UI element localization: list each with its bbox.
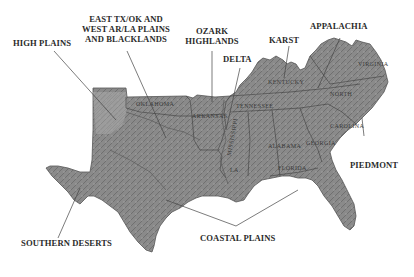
label-appalachia: APPALACHIA — [310, 21, 368, 31]
label-delta: DELTA — [223, 54, 252, 64]
label-ozark-line1: OZARK — [182, 26, 242, 36]
label-east-tx-line2: WEST AR/LA PLAINS — [78, 24, 174, 34]
label-east-tx-line1: EAST TX/OK AND — [78, 14, 174, 24]
state-label-arkansas: ARKANSAS — [192, 113, 228, 119]
state-label-alabama: ALABAMA — [268, 143, 301, 149]
state-label-tennessee: TENNESSEE — [236, 103, 273, 109]
label-karst: KARST — [269, 35, 299, 45]
leader-high-plains — [54, 51, 116, 120]
label-ozark-highlands: OZARK HIGHLANDS — [182, 26, 242, 46]
state-label-florida: FLORIDA — [278, 165, 307, 171]
label-piedmont: PIEDMONT — [350, 160, 398, 170]
label-southern-deserts: SOUTHERN DESERTS — [21, 238, 112, 248]
state-label-georgia: GEORGIA — [306, 140, 336, 146]
state-label-south-carolina: CAROLINA — [330, 123, 364, 129]
state-label-north-carolina: NORTH — [330, 91, 353, 97]
state-label-louisiana: LA — [230, 167, 239, 173]
label-east-tx-line3: AND BLACKLANDS — [78, 34, 174, 44]
label-ozark-line2: HIGHLANDS — [182, 36, 242, 46]
landmass — [46, 38, 388, 252]
state-label-kentucky: KENTUCKY — [268, 79, 304, 85]
southern-states-outline — [46, 38, 388, 252]
state-label-oklahoma: OKLAHOMA — [136, 101, 174, 107]
state-label-virginia: VIRGINIA — [358, 61, 389, 67]
label-coastal-plains: COASTAL PLAINS — [200, 233, 276, 243]
leader-southern-deserts — [58, 188, 80, 238]
label-east-tx-ok-plains: EAST TX/OK AND WEST AR/LA PLAINS AND BLA… — [78, 14, 174, 44]
label-high-plains: HIGH PLAINS — [13, 38, 71, 48]
